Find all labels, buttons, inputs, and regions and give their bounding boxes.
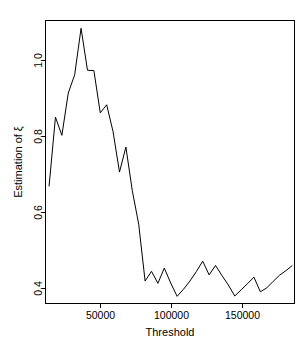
xi-estimation-line-chart: 1.0 0.8 0.6 0.4 50000 100000 150000 Thre… xyxy=(0,0,307,347)
x-axis-title: Threshold xyxy=(146,326,195,338)
y-tick-label-0.4: 0.4 xyxy=(32,281,44,296)
y-tick-label-0.6: 0.6 xyxy=(32,205,44,220)
y-tick-label-0.8: 0.8 xyxy=(32,129,44,144)
y-axis-tick-labels: 1.0 0.8 0.6 0.4 xyxy=(32,53,44,296)
x-tick-label-50000: 50000 xyxy=(86,309,115,321)
x-tick-label-100000: 100000 xyxy=(154,309,189,321)
plot-frame xyxy=(46,21,295,304)
y-tick-label-1.0: 1.0 xyxy=(32,53,44,68)
svg-text:Estimation of ξ: Estimation of ξ xyxy=(12,126,24,198)
y-axis-title-prefix: Estimation of xyxy=(12,131,24,198)
chart-container: 1.0 0.8 0.6 0.4 50000 100000 150000 Thre… xyxy=(0,0,307,347)
y-axis-ticks xyxy=(42,61,46,289)
y-axis-title: Estimation of ξ xyxy=(12,126,24,198)
x-axis-tick-labels: 50000 100000 150000 xyxy=(86,309,260,321)
x-tick-label-150000: 150000 xyxy=(225,309,260,321)
data-series-line xyxy=(49,28,292,296)
x-axis-ticks xyxy=(101,304,243,308)
y-axis-title-symbol: ξ xyxy=(12,126,24,131)
